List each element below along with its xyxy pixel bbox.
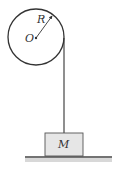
ground — [25, 157, 112, 162]
pulley-diagram: R O M — [0, 0, 120, 169]
pulley: R O — [8, 9, 64, 65]
center-label: O — [25, 32, 34, 45]
radius-label: R — [36, 13, 45, 26]
block-label: M — [57, 138, 70, 151]
ground-shading — [25, 158, 112, 162]
block: M — [45, 133, 83, 156]
